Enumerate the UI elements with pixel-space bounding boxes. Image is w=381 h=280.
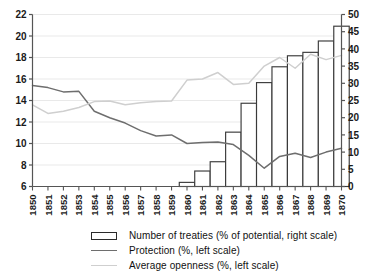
x-tick-label-1867: 1867 (290, 195, 301, 216)
left-tick-label-12: 12 (15, 117, 27, 128)
x-tick-label-1856: 1856 (120, 195, 131, 216)
x-tick-label-1862: 1862 (213, 195, 224, 216)
left-tick-label-6: 6 (21, 181, 27, 192)
chart-figure: 6810121416182022051015202530354045501850… (0, 0, 381, 280)
x-tick-label-1851: 1851 (43, 194, 54, 216)
x-tick-label-1854: 1854 (89, 194, 100, 216)
x-tick-label-1858: 1858 (151, 195, 162, 216)
bar-1868 (303, 52, 318, 186)
x-tick-label-1853: 1853 (73, 195, 84, 216)
legend-item-treaties: Number of treaties (% of potential, righ… (88, 228, 381, 243)
line-swatch-light-icon (88, 258, 119, 273)
x-tick-label-1855: 1855 (104, 194, 115, 216)
legend-label-protection: Protection (%, left scale) (129, 245, 240, 256)
right-tick-label-5: 5 (348, 164, 354, 175)
x-tick-label-1865: 1865 (259, 194, 270, 216)
bar-1863 (226, 132, 241, 186)
chart-legend: Number of treaties (% of potential, righ… (0, 228, 381, 280)
x-tick-label-1869: 1869 (321, 195, 332, 216)
x-tick-label-1852: 1852 (58, 195, 69, 216)
bar-swatch-icon (88, 228, 119, 243)
left-tick-label-18: 18 (15, 52, 27, 63)
right-tick-label-50: 50 (348, 9, 360, 20)
plot-area: 6810121416182022051015202530354045501850… (0, 0, 381, 226)
x-tick-label-1866: 1866 (274, 195, 285, 216)
x-tick-label-1861: 1861 (197, 194, 208, 216)
legend-item-protection: Protection (%, left scale) (88, 243, 381, 258)
bar-1860 (179, 182, 194, 186)
x-tick-label-1859: 1859 (166, 195, 177, 216)
left-tick-label-14: 14 (15, 95, 27, 106)
bar-1862 (210, 162, 225, 187)
right-tick-label-0: 0 (348, 181, 354, 192)
x-tick-label-1868: 1868 (305, 195, 316, 216)
legend-item-openness: Average openness (%, left scale) (88, 258, 381, 273)
bar-1866 (272, 67, 287, 187)
right-tick-label-15: 15 (348, 130, 360, 141)
bar-1869 (318, 41, 333, 187)
left-tick-label-16: 16 (15, 74, 27, 85)
x-tick-label-1864: 1864 (243, 194, 254, 216)
left-tick-label-20: 20 (15, 31, 27, 42)
bar-1865 (257, 83, 272, 187)
bar-1864 (241, 103, 256, 186)
x-tick-label-1857: 1857 (135, 195, 146, 216)
left-tick-label-8: 8 (21, 160, 27, 171)
right-tick-label-30: 30 (348, 78, 360, 89)
x-tick-label-1850: 1850 (27, 195, 38, 216)
right-tick-label-35: 35 (348, 61, 360, 72)
x-tick-label-1863: 1863 (228, 195, 239, 216)
left-tick-label-10: 10 (15, 138, 27, 149)
right-tick-label-40: 40 (348, 44, 360, 55)
line-swatch-dark-icon (88, 243, 119, 258)
legend-label-treaties: Number of treaties (% of potential, righ… (129, 230, 337, 241)
bar-1861 (195, 171, 210, 186)
bar-1867 (287, 56, 302, 187)
right-tick-label-25: 25 (348, 95, 360, 106)
legend-label-openness: Average openness (%, left scale) (129, 260, 279, 271)
right-tick-label-45: 45 (348, 26, 360, 37)
chart-svg: 6810121416182022051015202530354045501850… (0, 0, 381, 226)
right-tick-label-20: 20 (348, 112, 360, 123)
x-tick-label-1860: 1860 (182, 195, 193, 216)
left-tick-label-22: 22 (15, 9, 27, 20)
right-tick-label-10: 10 (348, 147, 360, 158)
x-tick-label-1870: 1870 (336, 195, 347, 216)
